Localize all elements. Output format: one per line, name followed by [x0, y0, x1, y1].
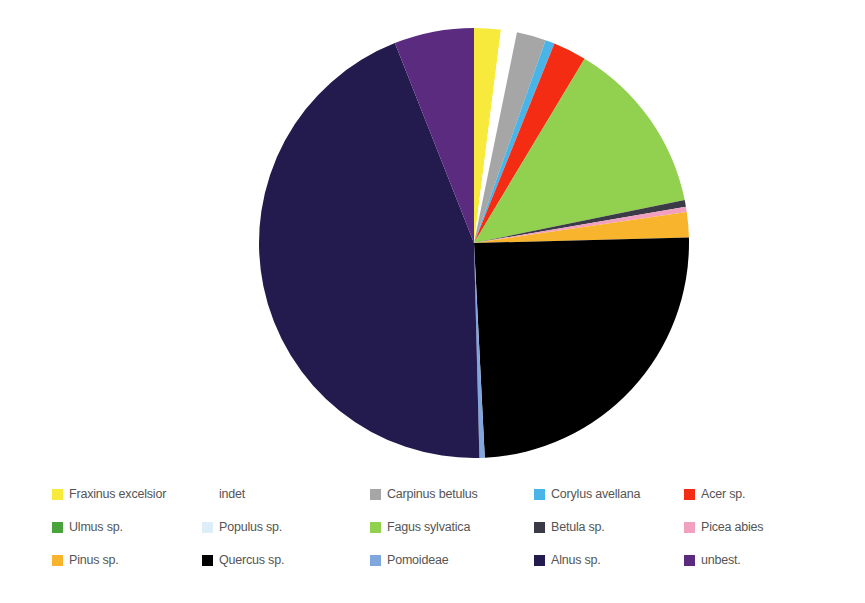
- legend-row: Ulmus sp.Populus sp.Fagus sylvaticaBetul…: [52, 511, 852, 544]
- legend-swatch-acer-sp: [684, 489, 695, 500]
- legend-row: Pinus sp.Quercus sp.PomoideaeAlnus sp.un…: [52, 544, 852, 577]
- legend-swatch-quercus-sp: [202, 555, 213, 566]
- pie-chart-figure: Fraxinus excelsiorindetCarpinus betulusC…: [0, 0, 865, 603]
- pie-svg: [0, 0, 865, 470]
- legend-label-picea-abies: Picea abies: [701, 521, 763, 534]
- legend-label-fagus-sylvatica: Fagus sylvatica: [387, 521, 470, 534]
- legend-swatch-ulmus-sp: [52, 522, 63, 533]
- legend-item-ulmus-sp[interactable]: Ulmus sp.: [52, 511, 202, 544]
- legend-item-unbest[interactable]: unbest.: [684, 544, 834, 577]
- legend-item-indet[interactable]: indet: [202, 478, 370, 511]
- legend-swatch-pinus-sp: [52, 555, 63, 566]
- legend-swatch-corylus-avellana: [534, 489, 545, 500]
- legend-swatch-fraxinus-excelsior: [52, 489, 63, 500]
- legend-item-pinus-sp[interactable]: Pinus sp.: [52, 544, 202, 577]
- legend-swatch-unbest: [684, 555, 695, 566]
- legend-label-pinus-sp: Pinus sp.: [69, 554, 119, 567]
- pie-plot-area: [0, 0, 865, 470]
- legend-swatch-indet: [202, 489, 213, 500]
- legend-item-fraxinus-excelsior[interactable]: Fraxinus excelsior: [52, 478, 202, 511]
- legend-item-quercus-sp[interactable]: Quercus sp.: [202, 544, 370, 577]
- legend-item-fagus-sylvatica[interactable]: Fagus sylvatica: [370, 511, 534, 544]
- legend-item-acer-sp[interactable]: Acer sp.: [684, 478, 834, 511]
- legend-label-corylus-avellana: Corylus avellana: [551, 488, 640, 501]
- legend-label-alnus-sp: Alnus sp.: [551, 554, 601, 567]
- pie-slice[interactable]: [474, 238, 689, 458]
- legend-label-acer-sp: Acer sp.: [701, 488, 745, 501]
- legend-swatch-alnus-sp: [534, 555, 545, 566]
- legend-swatch-carpinus-betulus: [370, 489, 381, 500]
- legend-label-unbest: unbest.: [701, 554, 741, 567]
- legend-item-picea-abies[interactable]: Picea abies: [684, 511, 834, 544]
- legend-label-betula-sp: Betula sp.: [551, 521, 605, 534]
- legend-label-fraxinus-excelsior: Fraxinus excelsior: [69, 488, 166, 501]
- legend-swatch-fagus-sylvatica: [370, 522, 381, 533]
- legend-swatch-populus-sp: [202, 522, 213, 533]
- legend-label-indet: indet: [219, 488, 245, 501]
- legend-item-alnus-sp[interactable]: Alnus sp.: [534, 544, 684, 577]
- legend-label-ulmus-sp: Ulmus sp.: [69, 521, 123, 534]
- legend-label-quercus-sp: Quercus sp.: [219, 554, 284, 567]
- legend-label-populus-sp: Populus sp.: [219, 521, 282, 534]
- legend-item-pomoideae[interactable]: Pomoideae: [370, 544, 534, 577]
- legend-item-populus-sp[interactable]: Populus sp.: [202, 511, 370, 544]
- legend-swatch-pomoideae: [370, 555, 381, 566]
- legend-item-betula-sp[interactable]: Betula sp.: [534, 511, 684, 544]
- legend-swatch-picea-abies: [684, 522, 695, 533]
- legend-item-corylus-avellana[interactable]: Corylus avellana: [534, 478, 684, 511]
- legend-swatch-betula-sp: [534, 522, 545, 533]
- legend-label-pomoideae: Pomoideae: [387, 554, 448, 567]
- legend-row: Fraxinus excelsiorindetCarpinus betulusC…: [52, 478, 852, 511]
- legend-label-carpinus-betulus: Carpinus betulus: [387, 488, 478, 501]
- legend-item-carpinus-betulus[interactable]: Carpinus betulus: [370, 478, 534, 511]
- chart-legend: Fraxinus excelsiorindetCarpinus betulusC…: [52, 478, 852, 593]
